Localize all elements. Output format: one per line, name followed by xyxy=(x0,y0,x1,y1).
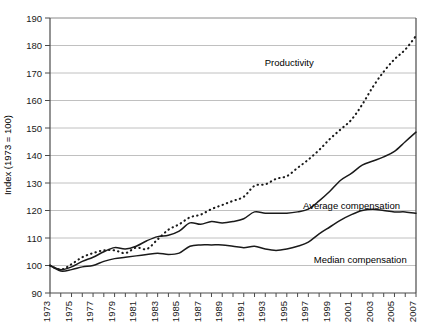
x-tick-label: 1979 xyxy=(106,301,117,322)
x-tick-label: 1987 xyxy=(192,301,203,322)
y-tick-label: 100 xyxy=(26,260,42,271)
x-axis-ticks: 1973197519771979198119831985198719891991… xyxy=(41,293,418,322)
x-tick-label: 1977 xyxy=(84,301,95,322)
x-tick-label: 1983 xyxy=(149,301,160,322)
y-tick-label: 140 xyxy=(26,150,42,161)
x-tick-label: 1997 xyxy=(299,301,310,322)
x-tick-label: 1981 xyxy=(127,301,138,322)
x-tick-label: 1991 xyxy=(235,301,246,322)
x-tick-label: 2005 xyxy=(385,301,396,322)
x-tick-label: 2003 xyxy=(364,301,375,322)
y-tick-label: 110 xyxy=(27,233,42,244)
y-tick-label: 160 xyxy=(26,95,42,106)
y-tick-label: 180 xyxy=(26,40,42,51)
y-axis-ticks: 90100110120130140150160170180190 xyxy=(26,13,50,299)
x-tick-label: 1999 xyxy=(321,301,332,322)
chart-container: 90100110120130140150160170180190 1973197… xyxy=(0,0,443,336)
y-tick-label: 90 xyxy=(31,288,42,299)
x-tick-label: 1975 xyxy=(63,301,74,322)
y-tick-label: 150 xyxy=(26,123,42,134)
y-axis-title: Index (1973 = 100) xyxy=(2,115,13,195)
x-tick-label: 2007 xyxy=(407,301,418,322)
y-tick-label: 130 xyxy=(26,178,42,189)
x-tick-label: 2001 xyxy=(342,301,353,322)
y-tick-label: 190 xyxy=(26,13,42,24)
x-tick-label: 1973 xyxy=(41,301,52,322)
x-tick-label: 1989 xyxy=(213,301,224,322)
y-tick-label: 120 xyxy=(26,205,42,216)
series-label-2: Median compensation xyxy=(314,254,407,265)
x-tick-label: 1995 xyxy=(278,301,289,322)
line-chart: 90100110120130140150160170180190 1973197… xyxy=(0,0,443,336)
x-tick-label: 1985 xyxy=(170,301,181,322)
series-label-0: Productivity xyxy=(265,57,314,68)
x-tick-label: 1993 xyxy=(256,301,267,322)
y-tick-label: 170 xyxy=(26,68,42,79)
series-label-1: Average compensation xyxy=(303,200,400,211)
